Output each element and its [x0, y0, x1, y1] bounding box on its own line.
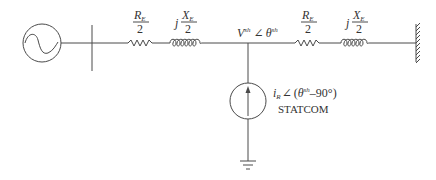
bus-voltage-label: Vsh∠θsh	[237, 26, 278, 40]
sine-wave-icon	[25, 34, 58, 53]
reactance-left-label: j XE 2	[173, 8, 197, 36]
ac-source-circle	[23, 24, 61, 62]
resistor-left	[128, 40, 152, 46]
inductor-right	[341, 39, 369, 46]
reactance-left-denominator: 2	[185, 22, 191, 36]
inductor-left	[170, 39, 202, 46]
resistor-right-label: RE 2	[301, 8, 317, 36]
reactance-left-numerator: XE	[181, 8, 194, 23]
circuit-diagram: RE 2 j XE 2 Vsh∠θsh RE 2 j XE 2 iR∠(θsh–…	[0, 0, 436, 180]
reactance-right-prefix: j	[344, 16, 350, 30]
resistor-left-label: RE 2	[133, 8, 149, 36]
reactance-right-numerator: XE	[352, 8, 365, 23]
ground-wall-icon	[416, 23, 420, 63]
statcom-name-label: STATCOM	[278, 103, 329, 115]
reactance-left-prefix: j	[173, 16, 179, 30]
resistor-right-denominator: 2	[305, 22, 311, 36]
ac-source	[23, 24, 61, 62]
ground-icon	[240, 161, 256, 169]
resistor-left-numerator: RE	[133, 8, 146, 23]
resistor-right	[295, 40, 319, 46]
current-source-icon	[230, 83, 266, 119]
resistor-right-numerator: RE	[301, 8, 314, 23]
reactance-right-label: j XE 2	[344, 8, 368, 36]
resistor-left-denominator: 2	[137, 22, 143, 36]
statcom-current-label: iR∠(θsh–90°)	[273, 86, 337, 101]
reactance-right-denominator: 2	[356, 22, 362, 36]
